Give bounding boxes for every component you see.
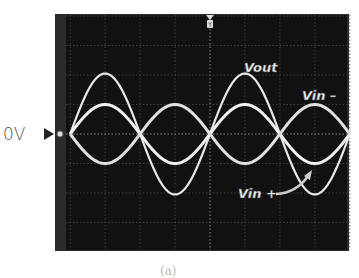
figure-caption: (a) bbox=[160, 264, 177, 278]
label-vin-plus: Vin + bbox=[238, 186, 277, 201]
trigger-marker-label: T bbox=[207, 21, 212, 28]
ground-marker-icon bbox=[57, 131, 63, 137]
label-vout: Vout bbox=[244, 60, 278, 75]
screen-area bbox=[66, 15, 347, 250]
label-vin-minus: Vin – bbox=[302, 88, 337, 103]
ground-arrow-icon bbox=[44, 128, 54, 140]
ground-level-label: 0V bbox=[3, 124, 25, 144]
